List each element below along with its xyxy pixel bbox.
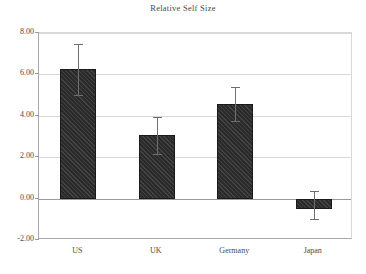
y-tick-label: -2.00 xyxy=(0,234,34,243)
chart-container: Relative Self Size 8.006.004.002.000.00-… xyxy=(0,0,366,274)
y-tick-label: 8.00 xyxy=(0,27,34,36)
y-tick-label: 6.00 xyxy=(0,68,34,77)
x-tick-label-uk: UK xyxy=(116,246,196,255)
y-tick-mark xyxy=(35,198,39,199)
y-tick-label: 4.00 xyxy=(0,110,34,119)
error-bar-cap-upper xyxy=(74,44,83,45)
y-tick-mark xyxy=(35,156,39,157)
error-bar-cap-lower xyxy=(310,219,319,220)
error-bar-germany xyxy=(235,87,236,121)
error-bar-cap-lower xyxy=(153,154,162,155)
y-tick-mark xyxy=(35,73,39,74)
x-tick-label-japan: Japan xyxy=(273,246,353,255)
error-bar-japan xyxy=(314,191,315,220)
error-bar-us xyxy=(78,44,79,95)
error-bar-cap-lower xyxy=(231,121,240,122)
x-tick-label-us: US xyxy=(37,246,117,255)
y-tick-label: 2.00 xyxy=(0,151,34,160)
error-bar-cap-upper xyxy=(231,87,240,88)
error-bar-uk xyxy=(157,117,158,154)
chart-title: Relative Self Size xyxy=(0,3,366,13)
y-tick-mark xyxy=(35,239,39,240)
error-bar-cap-upper xyxy=(310,191,319,192)
error-bar-cap-lower xyxy=(74,95,83,96)
y-tick-mark xyxy=(35,32,39,33)
y-tick-label: 0.00 xyxy=(0,193,34,202)
y-tick-mark xyxy=(35,115,39,116)
x-tick-label-germany: Germany xyxy=(194,246,274,255)
gridline-8.00 xyxy=(39,33,351,34)
error-bar-cap-upper xyxy=(153,117,162,118)
plot-area xyxy=(38,32,352,239)
